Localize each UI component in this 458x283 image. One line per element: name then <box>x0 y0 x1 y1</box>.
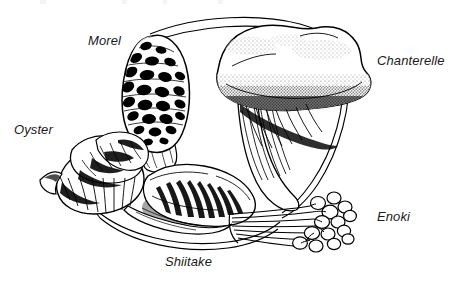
oyster-specimen <box>40 132 148 214</box>
label-shiitake: Shiitake <box>165 255 212 268</box>
mushroom-line-art <box>0 0 458 283</box>
label-enoki: Enoki <box>377 210 410 223</box>
mushroom-illustration-figure: Morel Chanterelle Oyster Enoki Shiitake <box>0 0 458 283</box>
label-oyster: Oyster <box>14 123 53 136</box>
label-morel: Morel <box>88 34 121 47</box>
label-chanterelle: Chanterelle <box>377 54 445 67</box>
